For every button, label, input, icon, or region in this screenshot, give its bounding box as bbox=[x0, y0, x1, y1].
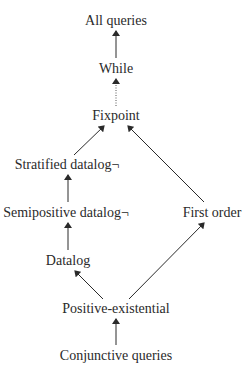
node-all-queries: All queries bbox=[85, 13, 147, 29]
node-positive-existential: Positive-existential bbox=[62, 301, 169, 317]
edge-firstorder-to-fixpoint bbox=[128, 126, 204, 202]
node-while: While bbox=[99, 61, 133, 77]
node-first-order: First order bbox=[183, 205, 242, 221]
node-stratified-datalog: Stratified datalog¬ bbox=[15, 157, 120, 173]
edge-posex-to-datalog bbox=[75, 271, 103, 299]
query-language-hierarchy-diagram: All queries While Fixpoint Stratified da… bbox=[0, 0, 251, 374]
node-semipositive-datalog: Semipositive datalog¬ bbox=[3, 205, 129, 221]
node-fixpoint: Fixpoint bbox=[92, 108, 139, 124]
edges-layer bbox=[0, 0, 251, 374]
node-datalog: Datalog bbox=[46, 253, 90, 269]
edge-posex-to-firstorder bbox=[129, 223, 204, 299]
node-conjunctive-queries: Conjunctive queries bbox=[60, 348, 172, 364]
edge-stratified-to-fixpoint bbox=[74, 126, 104, 155]
